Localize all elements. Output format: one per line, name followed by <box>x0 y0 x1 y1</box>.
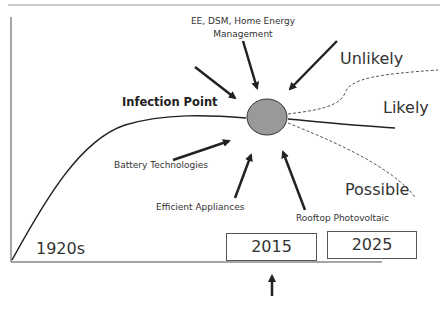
year-box-2025: 2025 <box>327 231 417 259</box>
arrow-n <box>243 41 257 88</box>
possible-label: Possible <box>345 180 409 199</box>
inflection-label: Infection Point <box>122 95 218 109</box>
likely-label: Likely <box>383 98 429 117</box>
start-era-label: 1920s <box>36 239 85 258</box>
arrow-appliances <box>235 155 251 198</box>
top-driver-line1: EE, DSM, Home Energy <box>168 15 318 28</box>
unlikely-label: Unlikely <box>340 49 403 68</box>
top-driver-label: EE, DSM, Home Energy Management <box>168 15 318 41</box>
arrow-rooftop <box>283 152 305 210</box>
appliances-label: Efficient Appliances <box>156 202 244 212</box>
likely-curve <box>288 119 395 128</box>
rooftop-pv-label: Rooftop Photovoltaic <box>296 213 389 223</box>
battery-label: Battery Technologies <box>114 160 208 170</box>
arrow-nw <box>195 67 235 98</box>
year-box-2015: 2015 <box>226 233 317 261</box>
top-driver-line2: Management <box>168 28 318 41</box>
arrow-battery <box>173 141 229 160</box>
inflection-node <box>247 99 287 135</box>
arrow-ne <box>290 41 337 89</box>
diagram-canvas <box>0 0 446 309</box>
